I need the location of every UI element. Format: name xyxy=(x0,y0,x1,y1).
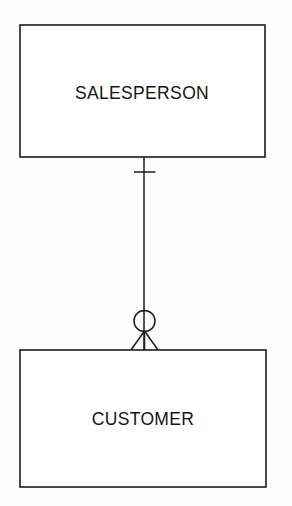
cardinality-zero-circle-icon xyxy=(134,311,155,332)
relationship-connector[interactable] xyxy=(131,157,158,350)
entity-salesperson-label: SALESPERSON xyxy=(75,83,209,103)
entity-customer[interactable]: CUSTOMER xyxy=(20,350,266,487)
er-diagram-svg: SALESPERSON CUSTOMER xyxy=(0,0,292,506)
er-diagram-canvas: SALESPERSON CUSTOMER xyxy=(0,0,292,506)
entity-salesperson[interactable]: SALESPERSON xyxy=(20,25,265,157)
entity-customer-label: CUSTOMER xyxy=(92,409,195,429)
cardinality-crowsfoot-icon xyxy=(131,331,158,350)
